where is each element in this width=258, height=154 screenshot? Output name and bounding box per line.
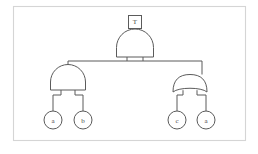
top-event-label: T	[133, 18, 138, 26]
basic-event-b-label: b	[81, 117, 85, 125]
diagram-canvas: T a b	[0, 0, 258, 154]
basic-event-c-label: c	[175, 117, 178, 125]
fault-tree-diagram: T a b	[0, 0, 258, 154]
